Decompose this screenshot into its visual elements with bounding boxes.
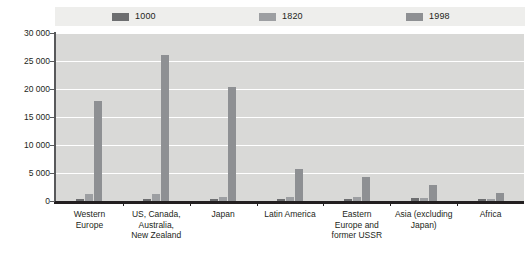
bar [362, 177, 370, 201]
bar [496, 193, 504, 201]
legend-label-1820: 1820 [282, 12, 303, 21]
category-label-line: Western [56, 209, 123, 220]
category-label-line: Asia (excluding [390, 209, 457, 220]
category-label-line: US, Canada, [123, 209, 190, 220]
legend-entry-1000: 1000 [112, 7, 156, 26]
y-axis-tick-label: 20 000 [2, 85, 50, 94]
bar-group [277, 33, 303, 201]
y-axis-tick [50, 61, 55, 62]
x-axis-category-label: EasternEurope andformer USSR [323, 209, 390, 241]
bar-group [411, 33, 437, 201]
category-label-line: former USSR [323, 230, 390, 241]
bar [85, 194, 93, 201]
y-axis-tick-label: 5 000 [2, 169, 50, 178]
category-label-line: New Zealand [123, 230, 190, 241]
y-axis-tick [50, 33, 55, 34]
bar [161, 55, 169, 201]
legend-entry-1820: 1820 [259, 7, 303, 26]
y-axis-tick-label: 0 [2, 197, 50, 206]
bar [152, 194, 160, 201]
category-label-line: Australia, [123, 220, 190, 231]
y-axis-tick-labels: 05 00010 00015 00020 00025 00030 000 [0, 0, 50, 260]
y-axis-tick-label: 30 000 [2, 29, 50, 38]
category-label-line: Japan [190, 209, 257, 220]
chart-legend: 1000 1820 1998 [55, 7, 525, 26]
category-label-line: Europe [56, 220, 123, 231]
bar [228, 87, 236, 201]
bar-group [143, 33, 169, 201]
legend-label-1000: 1000 [135, 12, 156, 21]
y-axis-tick [50, 89, 55, 90]
bar-group [210, 33, 236, 201]
legend-swatch-1820 [259, 13, 276, 21]
x-axis-category-label: Japan [190, 209, 257, 220]
y-axis-tick-label: 10 000 [2, 141, 50, 150]
x-axis-tick [390, 201, 391, 206]
bar [295, 169, 303, 201]
y-axis-tick-label: 15 000 [2, 113, 50, 122]
x-axis-tick [323, 201, 324, 206]
bar-group [344, 33, 370, 201]
chart-container: 1000 1820 1998 05 00010 00015 00020 0002… [0, 0, 531, 260]
y-axis-tick [50, 145, 55, 146]
legend-swatch-1998 [406, 13, 423, 21]
x-axis-category-label: Africa [457, 209, 524, 220]
legend-entry-1998: 1998 [406, 7, 450, 26]
category-label-line: Eastern [323, 209, 390, 220]
x-axis-tick [190, 201, 191, 206]
x-axis-category-label: Asia (excludingJapan) [390, 209, 457, 230]
x-axis-tick [123, 201, 124, 206]
bar-group [478, 33, 504, 201]
y-axis-tick [50, 117, 55, 118]
bar [429, 185, 437, 201]
x-axis [54, 201, 524, 204]
x-axis-tick [257, 201, 258, 206]
x-axis-category-label: Latin America [257, 209, 324, 220]
y-axis-tick [50, 201, 55, 202]
y-axis-tick-label: 25 000 [2, 57, 50, 66]
category-label-line: Japan) [390, 220, 457, 231]
bar [94, 101, 102, 201]
legend-swatch-1000 [112, 13, 129, 21]
x-axis-category-label: US, Canada,Australia,New Zealand [123, 209, 190, 241]
category-label-line: Europe and [323, 220, 390, 231]
category-label-line: Latin America [257, 209, 324, 220]
bar-group [76, 33, 102, 201]
category-label-line: Africa [457, 209, 524, 220]
y-axis-tick [50, 173, 55, 174]
x-axis-tick [457, 201, 458, 206]
plot-area [56, 33, 524, 201]
x-axis-category-label: WesternEurope [56, 209, 123, 230]
legend-label-1998: 1998 [429, 12, 450, 21]
